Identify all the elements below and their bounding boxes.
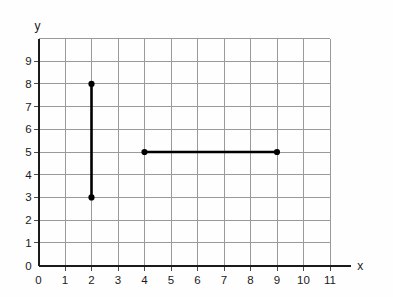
y-tick-label: 4 bbox=[25, 169, 32, 181]
x-tick-label: 3 bbox=[115, 274, 121, 286]
y-tick-label: 6 bbox=[25, 123, 31, 135]
plot-area: 012345678910110123456789xy bbox=[0, 0, 393, 297]
data-point bbox=[88, 81, 94, 87]
x-tick-label: 4 bbox=[141, 274, 148, 286]
y-axis-label: y bbox=[35, 19, 41, 33]
x-tick-label: 11 bbox=[324, 274, 336, 286]
y-tick-label: 7 bbox=[25, 101, 31, 113]
x-tick-label: 5 bbox=[168, 274, 174, 286]
coordinate-plane-figure: 012345678910110123456789xy bbox=[0, 0, 393, 297]
x-tick-label: 0 bbox=[35, 274, 41, 286]
x-tick-label: 9 bbox=[274, 274, 280, 286]
data-point bbox=[274, 149, 280, 155]
x-tick-label: 10 bbox=[297, 274, 310, 286]
x-tick-label: 7 bbox=[221, 274, 227, 286]
x-tick-label: 6 bbox=[194, 274, 200, 286]
data-point bbox=[141, 149, 147, 155]
y-tick-label: 8 bbox=[25, 78, 31, 90]
y-tick-label: 2 bbox=[25, 214, 31, 226]
x-tick-label: 1 bbox=[62, 274, 68, 286]
y-tick-label: 5 bbox=[25, 146, 31, 158]
x-axis-label: x bbox=[357, 259, 363, 273]
x-tick-label: 2 bbox=[88, 274, 94, 286]
y-tick-label: 3 bbox=[25, 191, 31, 203]
y-tick-label: 9 bbox=[25, 55, 31, 67]
x-tick-label: 8 bbox=[247, 274, 253, 286]
data-point bbox=[88, 194, 94, 200]
y-tick-label: 1 bbox=[25, 237, 31, 249]
y-tick-label: 0 bbox=[25, 260, 31, 272]
